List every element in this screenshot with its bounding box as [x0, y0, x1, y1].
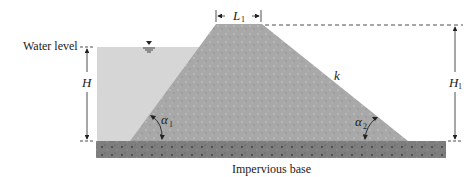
- alpha1-label: α: [161, 112, 169, 127]
- svg-text:1: 1: [458, 82, 462, 91]
- svg-text:2: 2: [363, 122, 367, 131]
- earth-dam-diagram: Water level H L 1 H 1 k α 1 α: [0, 0, 476, 177]
- impervious-base-label: Impervious base: [232, 162, 311, 176]
- crest-width-label: L: [232, 8, 240, 23]
- permeability-label: k: [334, 68, 340, 83]
- water-height-dimension: H: [80, 47, 93, 141]
- water-level-label: Water level: [23, 39, 78, 53]
- svg-text:1: 1: [169, 120, 173, 129]
- water-height-label: H: [81, 75, 92, 90]
- impervious-base: [96, 141, 446, 158]
- crest-width-dimension: L 1: [216, 8, 261, 24]
- alpha2-label: α: [355, 114, 363, 129]
- svg-text:1: 1: [241, 15, 245, 24]
